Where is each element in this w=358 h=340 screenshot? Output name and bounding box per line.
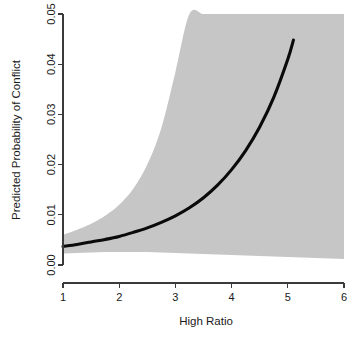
x-axis-tick-label: 4 (229, 291, 235, 303)
y-axis-tick-label: 0.05 (45, 3, 57, 24)
x-axis-tick-label: 6 (341, 291, 347, 303)
y-axis-tick-label: 0.02 (45, 154, 57, 175)
x-axis-tick-label: 1 (60, 291, 66, 303)
chart-container: 0.000.010.020.030.040.05 123456 Predicte… (0, 0, 358, 340)
x-axis-title: High Ratio (179, 315, 233, 327)
x-axis-tick-label: 2 (116, 291, 122, 303)
y-axis-tick-label: 0.01 (45, 204, 57, 225)
y-axis-tick-label: 0.00 (45, 254, 57, 275)
x-axis-tick-label: 3 (172, 291, 178, 303)
y-axis-tick-label: 0.03 (45, 104, 57, 125)
chart-svg: 0.000.010.020.030.040.05 123456 Predicte… (0, 0, 358, 340)
y-axis-tick-label: 0.04 (45, 53, 57, 74)
x-axis-tick-label: 5 (285, 291, 291, 303)
y-axis-title: Predicted Probability of Conflict (10, 59, 22, 220)
